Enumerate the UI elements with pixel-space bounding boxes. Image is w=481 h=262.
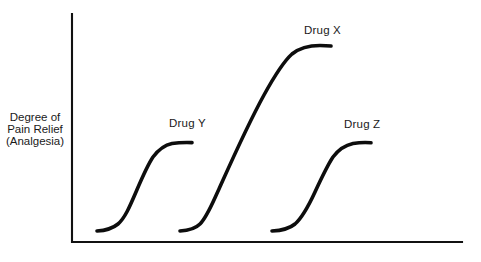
y-axis-title-line-3: (Analgesia) xyxy=(0,135,70,147)
curve-label-drug-z: Drug Z xyxy=(344,118,380,130)
y-axis-title: Degree of Pain Relief (Analgesia) xyxy=(0,111,70,148)
curve-drug-y xyxy=(97,143,192,231)
curve-label-drug-y: Drug Y xyxy=(169,117,206,129)
curve-label-drug-x: Drug X xyxy=(304,24,341,36)
curve-drug-z xyxy=(272,143,371,231)
y-axis-title-line-1: Degree of xyxy=(0,111,70,123)
dose-response-figure: Degree of Pain Relief (Analgesia) Drug X… xyxy=(0,0,481,262)
y-axis-title-line-2: Pain Relief xyxy=(0,123,70,135)
plot-area xyxy=(0,0,481,262)
